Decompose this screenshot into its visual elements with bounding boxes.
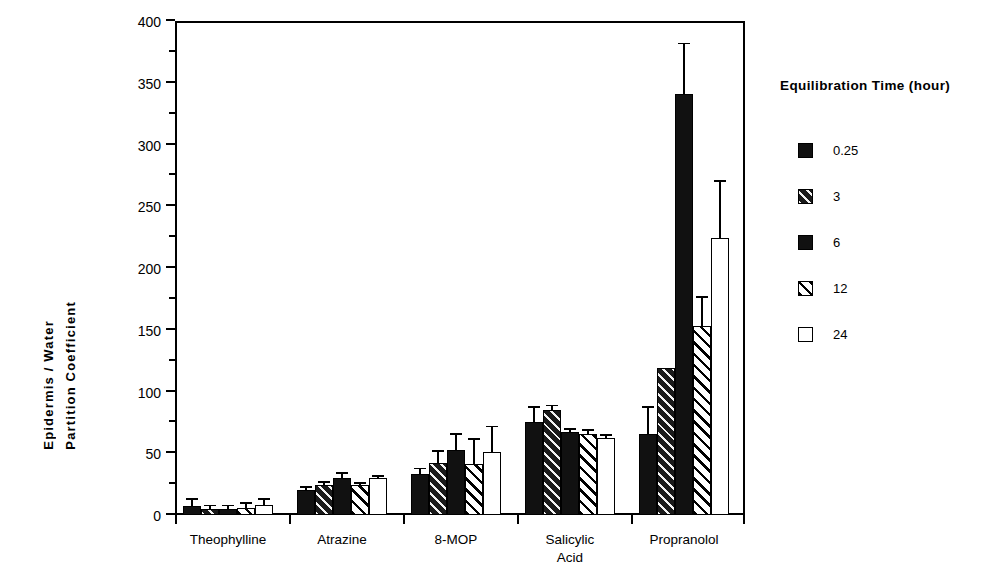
plot-right-border xyxy=(743,21,745,515)
error-bar-cap xyxy=(642,406,654,408)
error-bar-cap xyxy=(354,482,366,484)
bar xyxy=(579,434,597,516)
error-bar-cap xyxy=(318,481,330,483)
y-axis-tick-minor xyxy=(169,173,175,175)
error-bar-cap xyxy=(300,486,312,488)
error-bar-cap xyxy=(486,426,498,428)
x-axis-category-label: Theophylline xyxy=(168,531,288,549)
bar xyxy=(333,478,351,515)
legend-swatch-icon xyxy=(798,143,813,158)
error-bar xyxy=(245,504,247,508)
y-axis-tick-minor xyxy=(169,359,175,361)
bar xyxy=(525,422,543,515)
bar xyxy=(657,368,675,515)
error-bar-cap xyxy=(564,428,576,430)
error-bar xyxy=(683,44,685,93)
x-axis-tick xyxy=(631,515,633,524)
legend-entry-label: 6 xyxy=(833,235,840,250)
error-bar xyxy=(359,484,361,485)
error-bar-cap xyxy=(204,505,216,507)
bar xyxy=(201,509,219,515)
error-bar xyxy=(719,182,721,239)
error-bar-cap xyxy=(528,406,540,408)
bar xyxy=(675,94,693,515)
y-axis-tick-label: 100 xyxy=(101,385,161,401)
y-axis-tick-major xyxy=(166,390,175,392)
y-axis-tick-major xyxy=(166,81,175,83)
y-axis-tick-label: 200 xyxy=(101,261,161,277)
legend-entry-label: 3 xyxy=(833,189,840,204)
y-axis-title-line-1: Epidermis / Water xyxy=(42,320,55,450)
bar xyxy=(255,505,273,515)
y-axis-tick-minor xyxy=(169,297,175,299)
error-bar xyxy=(533,408,535,423)
error-bar-cap xyxy=(414,468,426,470)
bar xyxy=(315,485,333,515)
y-axis-tick-major xyxy=(166,266,175,268)
y-axis-tick-label: 250 xyxy=(101,199,161,215)
error-bar xyxy=(605,436,607,438)
y-axis-tick-label: 300 xyxy=(101,138,161,154)
y-axis-tick-minor xyxy=(169,50,175,52)
bar xyxy=(639,434,657,516)
error-bar xyxy=(491,427,493,452)
error-bar-cap xyxy=(432,450,444,452)
bar-chart-figure: Epidermis / Water Partition Coefficient … xyxy=(0,0,1007,587)
error-bar-cap xyxy=(546,405,558,407)
legend-entry: 6 xyxy=(780,219,995,265)
error-bar xyxy=(305,488,307,490)
bar xyxy=(693,326,711,515)
x-axis-category-label: 8-MOP xyxy=(396,531,516,549)
y-axis-tick-minor xyxy=(169,420,175,422)
legend-swatch-icon xyxy=(798,235,813,250)
error-bar xyxy=(341,474,343,478)
y-axis-tick-label: 150 xyxy=(101,323,161,339)
bar xyxy=(711,238,729,515)
error-bar xyxy=(701,298,703,326)
error-bar-cap xyxy=(678,43,690,45)
bar xyxy=(411,474,429,515)
error-bar-cap xyxy=(258,498,270,500)
x-axis-tick xyxy=(175,515,177,524)
error-bar xyxy=(551,406,553,410)
bar xyxy=(465,464,483,515)
y-axis-tick-minor xyxy=(169,482,175,484)
bar xyxy=(237,508,255,515)
plot-top-border xyxy=(175,21,745,23)
y-axis-tick-label: 0 xyxy=(101,508,161,524)
error-bar xyxy=(437,452,439,463)
legend-entry-label: 24 xyxy=(833,327,847,342)
error-bar xyxy=(473,440,475,465)
legend-entry: 0.25 xyxy=(780,127,995,173)
legend-entry-label: 0.25 xyxy=(833,143,858,158)
error-bar xyxy=(323,483,325,485)
y-axis-title: Epidermis / Water Partition Coefficient xyxy=(40,150,100,450)
error-bar-cap xyxy=(450,433,462,435)
legend-entry: 12 xyxy=(780,265,995,311)
error-bar xyxy=(587,431,589,433)
bar xyxy=(369,478,387,515)
legend-entry: 3 xyxy=(780,173,995,219)
y-axis-tick-label: 350 xyxy=(101,76,161,92)
error-bar-cap xyxy=(186,498,198,500)
x-axis-category-label: Atrazine xyxy=(282,531,402,549)
error-bar-cap xyxy=(468,438,480,440)
x-axis-tick xyxy=(743,515,745,524)
error-bar-cap xyxy=(600,434,612,436)
bar xyxy=(297,490,315,515)
y-axis-line xyxy=(175,21,177,515)
error-bar xyxy=(419,469,421,474)
x-axis-tick xyxy=(517,515,519,524)
y-axis-tick-major xyxy=(166,328,175,330)
y-axis-tick-major xyxy=(166,204,175,206)
y-axis-tick-label: 400 xyxy=(101,14,161,30)
plot-area: 050100150200250300350400 xyxy=(175,21,745,515)
error-bar xyxy=(455,435,457,450)
bar xyxy=(183,506,201,515)
y-axis-tick-minor xyxy=(169,112,175,114)
y-axis-tick-major xyxy=(166,513,175,515)
y-axis-tick-major xyxy=(166,143,175,145)
error-bar xyxy=(263,500,265,505)
error-bar-cap xyxy=(582,429,594,431)
error-bar xyxy=(377,477,379,478)
